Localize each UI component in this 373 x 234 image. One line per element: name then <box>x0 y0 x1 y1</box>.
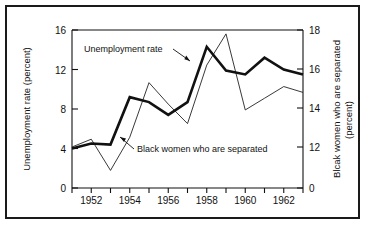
x-tick-label-1960: 1960 <box>234 195 257 206</box>
left-tick-label-4: 4 <box>60 144 66 155</box>
right-tick-label-14: 14 <box>309 103 321 114</box>
right-tick-label-18: 18 <box>309 25 321 36</box>
annotation-black-women-separated: Black women who are separated <box>120 137 268 154</box>
x-tick-label-1958: 1958 <box>196 195 219 206</box>
left-tick-label-16: 16 <box>55 25 67 36</box>
left-tick-label-0: 0 <box>60 183 66 194</box>
x-tick-label-1956: 1956 <box>157 195 180 206</box>
right-tick-label-16: 16 <box>309 64 321 75</box>
series-line-unemployment-rate <box>72 47 303 149</box>
annotation-unemployment-rate: Unemployment rate <box>84 44 190 61</box>
x-axis-ticks <box>72 188 303 193</box>
right-axis-title: Blcak women who are separated (percent) <box>331 40 354 178</box>
x-tick-label-1954: 1954 <box>119 195 142 206</box>
figure-container: 16 12 8 4 0 Unemployment rate (percent) … <box>0 0 373 234</box>
left-tick-label-12: 12 <box>55 65 67 76</box>
left-axis-ticks <box>72 30 78 188</box>
annotation-unemployment-rate-text: Unemployment rate <box>84 44 163 54</box>
left-axis-title-text: Unemployment rate (percent) <box>21 47 32 171</box>
x-axis-tick-labels: 1952 1954 1956 1958 1960 1962 <box>80 195 295 206</box>
right-tick-label-12: 12 <box>309 142 321 153</box>
chart-canvas: 16 12 8 4 0 Unemployment rate (percent) … <box>0 0 373 234</box>
x-tick-label-1962: 1962 <box>273 195 296 206</box>
right-axis-title-line2: (percent) <box>343 101 354 139</box>
right-tick-label-0: 0 <box>309 183 315 194</box>
left-axis-tick-labels: 16 12 8 4 0 <box>55 25 67 194</box>
x-tick-label-1952: 1952 <box>80 195 103 206</box>
annotation-arrowhead-unemployment <box>184 56 190 61</box>
annotation-black-women-separated-text: Black women who are separated <box>137 144 268 154</box>
right-axis-title-line1: Blcak women who are separated <box>331 40 342 178</box>
left-axis-title: Unemployment rate (percent) <box>21 47 32 171</box>
right-axis-ticks <box>297 30 303 188</box>
right-axis-tick-labels: 18 16 14 12 0 <box>309 25 321 194</box>
left-tick-label-8: 8 <box>60 104 66 115</box>
